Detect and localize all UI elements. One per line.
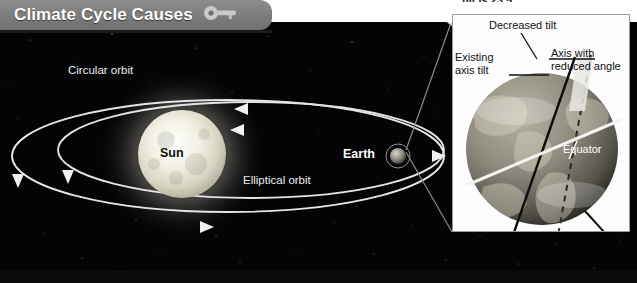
title-underline (0, 30, 272, 33)
label-existing-axis-tilt-line1: Existing (455, 51, 494, 64)
decreased-tilt-leader (521, 33, 537, 59)
label-existing-axis-tilt: Existing axis tilt (455, 51, 494, 77)
key-icon (203, 5, 237, 25)
axis-bottom-tick (585, 211, 605, 232)
label-equator: Equator (563, 143, 602, 156)
label-existing-axis-tilt-line2: axis tilt (455, 64, 494, 77)
label-axis-reduced-line2: reduced angle (551, 60, 621, 73)
top-clipped-caption: tilt is 23.5° (462, 0, 602, 2)
page-title: Climate Cycle Causes (14, 5, 193, 25)
label-decreased-tilt: Decreased tilt (489, 19, 556, 32)
label-axis-with-reduced-angle: Axis with reduced angle (551, 47, 621, 73)
figure-title-bar: Climate Cycle Causes (0, 0, 272, 30)
climate-cycle-causes-figure: tilt is 23.5° Climate Cycle Causes (0, 0, 637, 283)
label-axis-reduced-line1: Axis with (551, 47, 621, 60)
earth-tilt-inset-panel: Decreased tilt Existing axis tilt Axis w… (452, 14, 630, 232)
